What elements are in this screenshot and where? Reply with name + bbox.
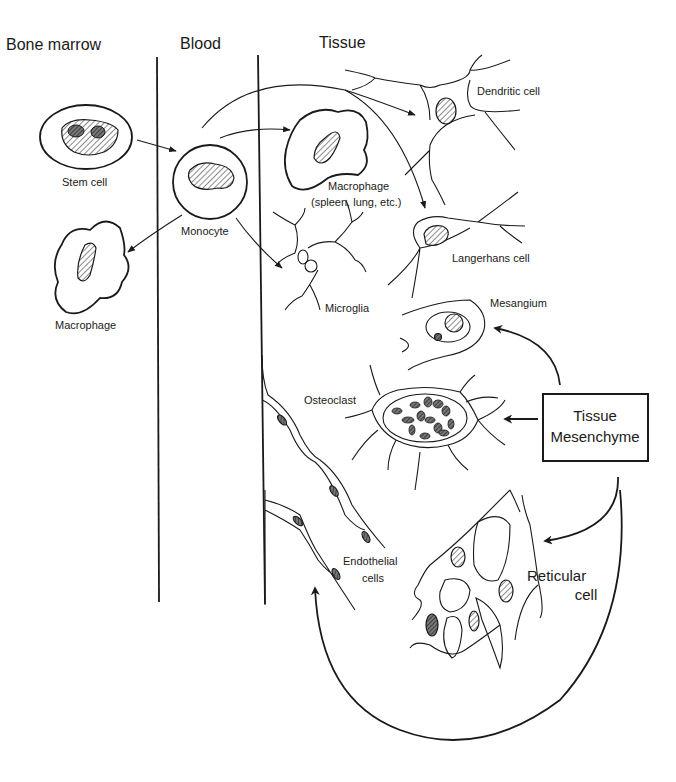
mesangium — [400, 300, 485, 370]
label-macrophage-tissue-line1: Macrophage — [328, 180, 389, 192]
label-osteoclast: Osteoclast — [304, 394, 356, 406]
divider-blood-tissue — [258, 55, 265, 604]
label-monocyte: Monocyte — [181, 225, 229, 237]
header-blood: Blood — [180, 35, 221, 52]
arrow-monocyte-to-microglia — [236, 218, 282, 268]
stem-cell — [40, 105, 132, 169]
arrow-monocyte-to-marrow-macrophage — [128, 215, 182, 252]
reticular-cell — [410, 490, 542, 668]
header-bone-marrow: Bone marrow — [6, 36, 102, 53]
box-label-line1: Tissue — [573, 407, 617, 424]
arrow-mesenchyme-to-reticular — [545, 477, 618, 541]
arrow-mesenchyme-to-endothelial — [315, 490, 622, 740]
monocyte — [173, 145, 247, 219]
macrophage-tissue — [285, 110, 368, 190]
arrow-mesenchyme-to-mesangium — [495, 328, 560, 385]
label-microglia: Microglia — [325, 302, 370, 314]
label-mesangium: Mesangium — [490, 297, 547, 309]
osteoclast — [345, 365, 505, 490]
label-macrophage-tissue-line2: (spleen, lung, etc.) — [311, 196, 402, 208]
langerhans-cell — [388, 192, 525, 298]
arrow-monocyte-to-tissue-macrophage — [220, 129, 290, 138]
box-label-line2: Mesenchyme — [550, 428, 639, 445]
header-tissue: Tissue — [319, 34, 366, 51]
macrophage-marrow — [55, 221, 129, 313]
divider-marrow-blood — [157, 57, 159, 602]
label-macrophage-marrow: Macrophage — [55, 319, 116, 331]
label-dendritic-cell: Dendritic cell — [477, 85, 540, 97]
label-reticular-line2: cell — [575, 586, 598, 603]
label-endothelial-line1: Endothelial — [343, 555, 397, 567]
label-langerhans-cell: Langerhans cell — [452, 252, 530, 264]
label-endothelial-line2: cells — [362, 572, 385, 584]
microglia — [273, 200, 366, 310]
label-stem-cell: Stem cell — [62, 176, 107, 188]
tissue-mesenchyme-box: Tissue Mesenchyme — [543, 394, 648, 461]
label-reticular-line1: Reticular — [527, 567, 586, 584]
diagram: Bone marrow Blood Tissue Stem cell Monoc… — [0, 0, 676, 782]
diagram-canvas: Bone marrow Blood Tissue Stem cell Monoc… — [0, 0, 676, 782]
